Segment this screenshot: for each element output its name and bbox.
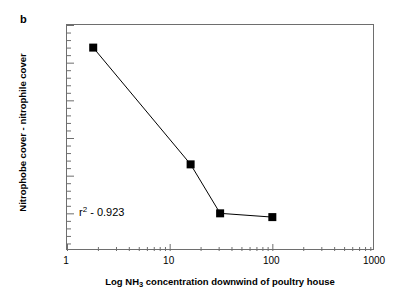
x-axis-title-post: concentration downwind of poultry house xyxy=(143,276,335,287)
series-markers xyxy=(89,44,276,222)
x-axis-tick-label: 1 xyxy=(36,255,96,266)
x-axis-title-pre: Log NH xyxy=(105,276,139,287)
r-squared-value: - 0.923 xyxy=(87,206,124,218)
x-axis-tick-label: 1000 xyxy=(344,255,404,266)
x-axis-tick-label: 100 xyxy=(241,255,301,266)
x-axis-minor-ticks xyxy=(98,247,370,251)
data-point-marker xyxy=(268,213,276,221)
data-point-marker xyxy=(216,209,224,217)
x-axis-title: Log NH3 concentration downwind of poultr… xyxy=(66,276,374,290)
plot-area: r2 - 0.923 xyxy=(66,24,374,250)
y-axis-major-ticks xyxy=(67,26,74,252)
figure-panel-b: b Nitrophobe cover - nitrophile cover Lo… xyxy=(0,0,406,300)
r-squared-annotation: r2 - 0.923 xyxy=(79,204,124,218)
x-axis-tick-label: 10 xyxy=(139,255,199,266)
data-point-marker xyxy=(187,160,195,168)
series-line xyxy=(93,48,272,218)
data-point-marker xyxy=(89,44,97,52)
x-axis-major-ticks xyxy=(68,244,376,251)
